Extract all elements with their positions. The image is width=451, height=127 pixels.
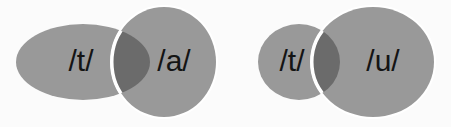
phoneme-label-t-1: /t/	[68, 44, 94, 77]
phoneme-label-t-2: /t/	[279, 44, 305, 77]
venn-diagram-figure: /t/ /a/ /t/ /u/	[0, 0, 451, 127]
phoneme-label-u: /u/	[366, 44, 400, 77]
venn-canvas: /t/ /a/ /t/ /u/	[0, 0, 451, 127]
phoneme-label-a: /a/	[157, 44, 191, 77]
